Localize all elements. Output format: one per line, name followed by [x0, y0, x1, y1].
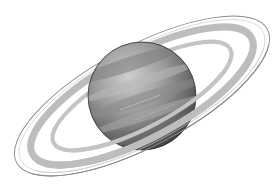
saturn-illustration — [0, 0, 278, 191]
illustration-canvas — [0, 0, 278, 191]
planet — [71, 39, 211, 154]
